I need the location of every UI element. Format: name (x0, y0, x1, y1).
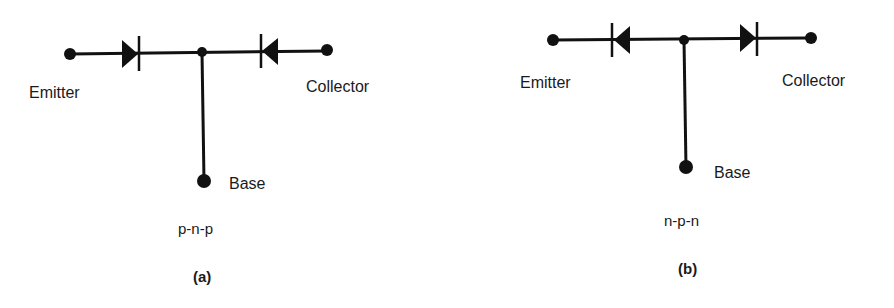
diagram-a-pnp: Emitter Collector Base p-n-p (a) (29, 34, 370, 285)
caption-a: (a) (193, 268, 211, 285)
type-label-b: n-p-n (664, 212, 699, 229)
collector-terminal-dot-b (805, 32, 817, 44)
base-wire-b (684, 40, 686, 168)
collector-terminal-dot-a (321, 44, 333, 56)
junction-dot-b (679, 35, 689, 45)
emitter-label-b: Emitter (520, 74, 571, 91)
collector-label-b: Collector (782, 72, 846, 89)
base-label-b: Base (714, 164, 751, 181)
emitter-label-a: Emitter (29, 84, 80, 101)
diode-emitter-base-a-icon (122, 36, 139, 71)
base-terminal-dot-b (679, 160, 693, 174)
diode-collector-base-a-icon (261, 34, 278, 68)
diagram-b-npn: Emitter Collector Base n-p-n (b) (520, 22, 846, 277)
diode-collector-base-b-icon (740, 22, 757, 56)
base-label-a: Base (229, 175, 266, 192)
base-terminal-dot-a (197, 174, 211, 188)
collector-label-a: Collector (306, 78, 370, 95)
type-label-a: p-n-p (178, 220, 213, 237)
junction-dot-a (197, 47, 207, 57)
emitter-terminal-dot-a (64, 48, 76, 60)
base-wire-a (202, 52, 204, 181)
diode-emitter-base-b-icon (612, 23, 630, 57)
caption-b: (b) (678, 260, 697, 277)
emitter-terminal-dot-b (547, 34, 559, 46)
